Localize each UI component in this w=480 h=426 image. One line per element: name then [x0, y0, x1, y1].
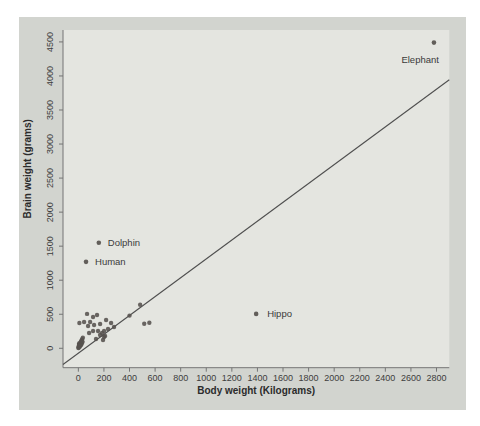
- x-tick-label: 2400: [375, 373, 395, 383]
- y-tick-label: 3000: [45, 134, 55, 154]
- data-point: [86, 324, 90, 328]
- data-point: [88, 320, 92, 324]
- x-tick-label: 2600: [401, 373, 421, 383]
- data-point: [91, 315, 95, 319]
- y-tick-label: 4500: [45, 32, 55, 52]
- x-tick-label: 1000: [196, 373, 216, 383]
- data-point: [127, 313, 131, 317]
- y-tick-label: 1500: [45, 236, 55, 256]
- data-point: [91, 329, 95, 333]
- data-point: [142, 322, 146, 326]
- point-label-elephant: Elephant: [401, 54, 439, 65]
- data-point: [109, 321, 113, 325]
- data-point-elephant: [432, 40, 437, 45]
- y-tick-label: 4000: [45, 66, 55, 86]
- data-point: [112, 325, 116, 329]
- figure: 0200400600800100012001400160018002000220…: [0, 0, 480, 426]
- point-label-human: Human: [95, 256, 126, 267]
- data-point: [103, 334, 107, 338]
- x-tick-label: 2200: [350, 373, 370, 383]
- y-tick-label: 0: [45, 346, 55, 351]
- data-point: [94, 337, 98, 341]
- y-tick-label: 1000: [45, 270, 55, 290]
- data-point: [95, 313, 99, 317]
- data-point: [85, 312, 89, 316]
- x-tick-label: 200: [96, 373, 111, 383]
- data-point-dolphin: [97, 240, 102, 245]
- data-point-human: [84, 260, 89, 265]
- point-label-hippo: Hippo: [267, 308, 292, 319]
- data-point: [106, 327, 110, 331]
- y-axis-title: Brain weight (grams): [22, 119, 33, 218]
- data-point: [87, 331, 91, 335]
- x-tick-label: 1200: [222, 373, 242, 383]
- data-point: [92, 323, 96, 327]
- x-tick-label: 2000: [324, 373, 344, 383]
- plot-area: [63, 30, 449, 368]
- data-point: [81, 336, 85, 340]
- scatter-plot: 0200400600800100012001400160018002000220…: [0, 0, 480, 426]
- x-tick-label: 400: [122, 373, 137, 383]
- data-point: [138, 303, 142, 307]
- data-point: [104, 318, 108, 322]
- x-tick-label: 1400: [247, 373, 267, 383]
- x-axis-title: Body weight (Kilograms): [197, 385, 315, 396]
- point-label-dolphin: Dolphin: [108, 237, 140, 248]
- data-point: [82, 320, 86, 324]
- x-tick-label: 1600: [273, 373, 293, 383]
- y-tick-label: 3500: [45, 100, 55, 120]
- y-tick-label: 500: [45, 307, 55, 322]
- x-tick-label: 1800: [299, 373, 319, 383]
- x-tick-label: 600: [148, 373, 163, 383]
- data-point: [102, 329, 106, 333]
- data-point: [80, 340, 84, 344]
- x-tick-label: 800: [173, 373, 188, 383]
- y-tick-label: 2500: [45, 168, 55, 188]
- x-tick-label: 0: [76, 373, 81, 383]
- data-point: [96, 329, 100, 333]
- y-tick-label: 2000: [45, 202, 55, 222]
- data-point: [98, 322, 102, 326]
- data-point: [77, 321, 81, 325]
- data-point: [147, 321, 151, 325]
- x-tick-label: 2800: [426, 373, 446, 383]
- data-point-hippo: [254, 312, 259, 317]
